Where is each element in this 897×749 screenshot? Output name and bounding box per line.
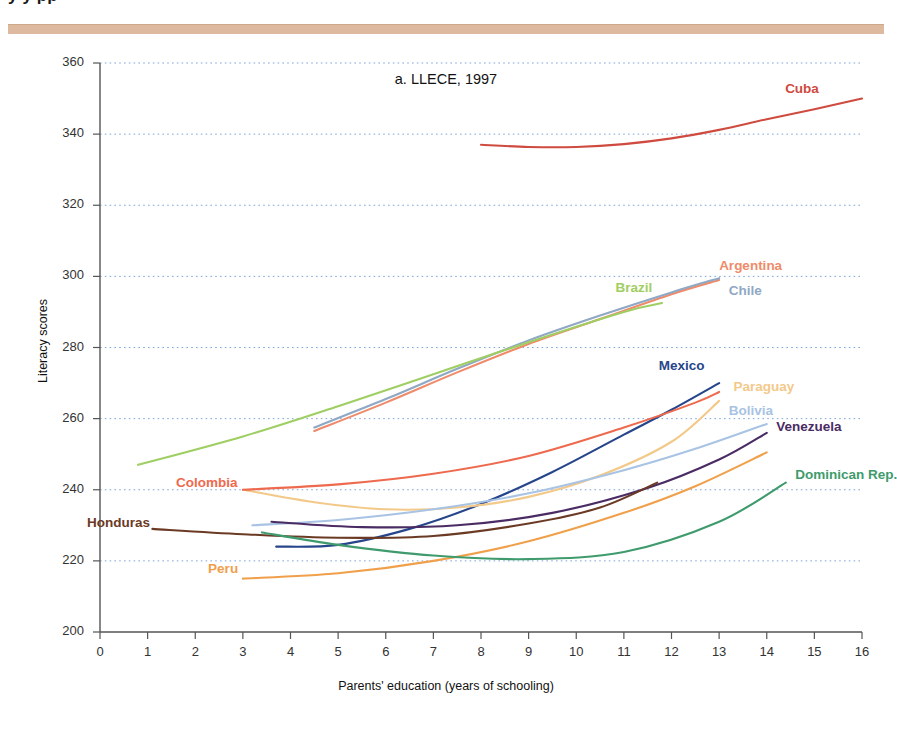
x-tick-label: 10 bbox=[556, 644, 596, 659]
series-label-venezuela: Venezuela bbox=[776, 419, 841, 434]
y-tick-label: 360 bbox=[42, 54, 84, 69]
series-label-brazil: Brazil bbox=[615, 280, 652, 295]
series-label-peru: Peru bbox=[208, 561, 238, 576]
x-tick-label: 3 bbox=[223, 644, 263, 659]
series-lines bbox=[138, 99, 862, 579]
series-label-dominican-rep: Dominican Rep. bbox=[795, 467, 897, 482]
x-tick-label: 14 bbox=[747, 644, 787, 659]
y-tick-label: 340 bbox=[42, 125, 84, 140]
series-line-6 bbox=[252, 424, 766, 525]
x-tick-label: 6 bbox=[366, 644, 406, 659]
x-tick-label: 16 bbox=[842, 644, 882, 659]
series-label-bolivia: Bolivia bbox=[729, 403, 773, 418]
series-label-cuba: Cuba bbox=[785, 81, 819, 96]
x-tick-label: 2 bbox=[175, 644, 215, 659]
y-tick-label: 220 bbox=[42, 552, 84, 567]
series-line-1 bbox=[314, 280, 719, 431]
x-tick-label: 12 bbox=[652, 644, 692, 659]
y-tick-label: 280 bbox=[42, 339, 84, 354]
x-tick-label: 4 bbox=[271, 644, 311, 659]
series-line-7 bbox=[271, 433, 766, 528]
y-tick-label: 200 bbox=[42, 623, 84, 638]
y-tick-label: 260 bbox=[42, 410, 84, 425]
series-line-2 bbox=[314, 278, 719, 427]
series-line-8 bbox=[243, 392, 719, 490]
x-tick-label: 5 bbox=[318, 644, 358, 659]
horizontal-rule bbox=[8, 24, 884, 34]
x-tick-label: 13 bbox=[699, 644, 739, 659]
y-tick-label: 300 bbox=[42, 267, 84, 282]
x-tick-label: 1 bbox=[128, 644, 168, 659]
chart-figure: a. LLECE, 1997 Literacy scores Parents' … bbox=[0, 34, 892, 749]
y-tick-label: 320 bbox=[42, 196, 84, 211]
x-tick-label: 0 bbox=[80, 644, 120, 659]
series-label-chile: Chile bbox=[729, 283, 762, 298]
x-tick-label: 15 bbox=[794, 644, 834, 659]
series-line-0 bbox=[481, 99, 862, 148]
y-tick-label: 240 bbox=[42, 481, 84, 496]
x-tick-label: 7 bbox=[413, 644, 453, 659]
series-label-argentina: Argentina bbox=[719, 258, 782, 273]
cropped-page-heading: y y pp bbox=[8, 0, 58, 6]
series-label-mexico: Mexico bbox=[659, 358, 705, 373]
x-tick-label: 11 bbox=[604, 644, 644, 659]
series-line-5 bbox=[243, 401, 719, 510]
x-tick-label: 8 bbox=[461, 644, 501, 659]
series-label-paraguay: Paraguay bbox=[733, 379, 794, 394]
series-label-colombia: Colombia bbox=[176, 475, 238, 490]
series-label-honduras: Honduras bbox=[87, 515, 150, 530]
x-tick-label: 9 bbox=[509, 644, 549, 659]
cropped-heading-strip: y y pp bbox=[0, 0, 892, 34]
axis-lines bbox=[100, 63, 862, 632]
